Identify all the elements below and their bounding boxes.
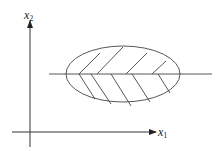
y-axis-label: x2 (24, 9, 33, 23)
lower-hatching (79, 74, 170, 106)
diagram-canvas: x2 x1 (0, 0, 222, 151)
upper-hatching (79, 47, 166, 74)
x-axis-label: x1 (158, 126, 167, 140)
